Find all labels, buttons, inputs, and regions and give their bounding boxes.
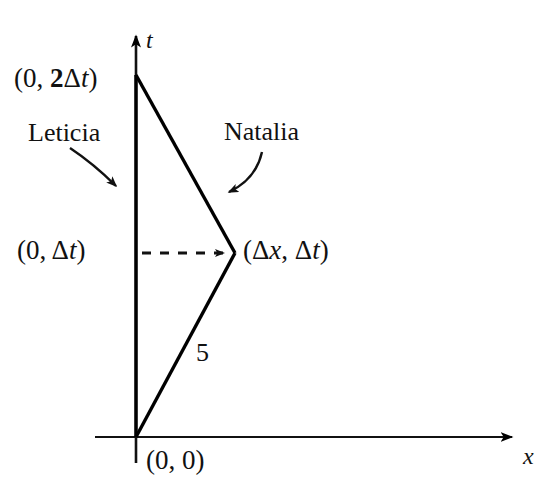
point-label-origin: (0, 0) (146, 447, 204, 474)
leticia-pointer-arrow (70, 148, 116, 186)
point-label-turnaround: (Δx, Δt) (243, 237, 329, 264)
natalia-outbound-worldline (136, 253, 235, 437)
natalia-inbound-worldline (136, 75, 235, 253)
spacetime-diagram: (0, 2Δt) (0, Δt) (Δx, Δt) (0, 0) Leticia… (0, 0, 555, 504)
t-axis-label: t (146, 28, 153, 52)
point-label-return: (0, 2Δt) (14, 65, 97, 92)
segment-length-label: 5 (196, 340, 209, 366)
x-axis-label: x (523, 444, 534, 468)
point-label-meeting: (0, Δt) (17, 237, 85, 264)
natalia-pointer-arrow (229, 152, 262, 192)
worldline-label-natalia: Natalia (224, 119, 299, 145)
worldline-label-leticia: Leticia (28, 120, 100, 146)
